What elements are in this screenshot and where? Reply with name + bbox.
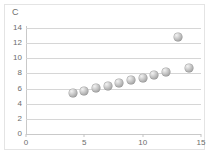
x-axis-tick bbox=[142, 134, 143, 137]
gridline bbox=[26, 58, 201, 59]
data-point bbox=[150, 70, 159, 79]
data-point bbox=[173, 33, 182, 42]
y-axis-tick-label: 6 bbox=[18, 85, 22, 93]
x-axis-tick bbox=[84, 134, 85, 137]
chart-corner-label: C bbox=[12, 8, 19, 17]
gridline bbox=[26, 43, 201, 44]
gridline bbox=[26, 104, 201, 105]
data-point bbox=[185, 64, 194, 73]
gridline bbox=[26, 119, 201, 120]
y-axis-tick-label: 4 bbox=[18, 100, 22, 108]
gridline bbox=[26, 134, 201, 135]
data-point bbox=[115, 79, 124, 88]
gridline bbox=[26, 73, 201, 74]
plot-area: 02468101214 051015 bbox=[26, 28, 201, 134]
data-point bbox=[162, 67, 171, 76]
x-axis-tick bbox=[201, 134, 202, 137]
y-axis-tick-label: 12 bbox=[13, 39, 22, 47]
data-point bbox=[68, 89, 77, 98]
y-axis-tick-label: 14 bbox=[13, 24, 22, 32]
y-axis-tick-label: 2 bbox=[18, 115, 22, 123]
data-point bbox=[127, 76, 136, 85]
data-point bbox=[80, 86, 89, 95]
gridline bbox=[26, 28, 201, 29]
x-axis-tick-label: 10 bbox=[138, 139, 147, 147]
y-axis-tick-label: 8 bbox=[18, 69, 22, 77]
data-point bbox=[138, 73, 147, 82]
x-axis-tick bbox=[26, 134, 27, 137]
x-axis-tick-label: 15 bbox=[197, 139, 206, 147]
x-axis-tick-label: 0 bbox=[24, 139, 28, 147]
gridline bbox=[26, 89, 201, 90]
y-axis-tick-label: 0 bbox=[18, 130, 22, 138]
data-point bbox=[92, 83, 101, 92]
data-point bbox=[103, 81, 112, 90]
x-axis-tick-label: 5 bbox=[82, 139, 86, 147]
scatter-chart: C 02468101214 051015 bbox=[0, 0, 208, 154]
y-axis-tick-label: 10 bbox=[13, 54, 22, 62]
